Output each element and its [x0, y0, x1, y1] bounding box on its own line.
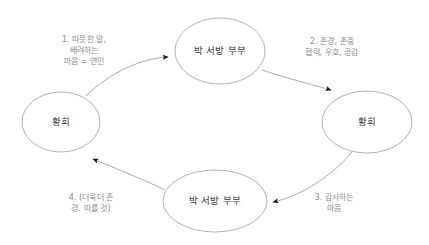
edge-bottom-to-left [93, 159, 165, 190]
node-right-ellipse[interactable] [322, 91, 412, 153]
node-top-ellipse[interactable] [175, 18, 265, 84]
node-left-ellipse[interactable] [22, 92, 100, 152]
edge-right-to-bottom [273, 152, 352, 202]
edge-left-to-top [86, 57, 168, 96]
node-shape-group [22, 18, 412, 232]
node-bottom-ellipse[interactable] [163, 170, 267, 232]
diagram-canvas: 박 서방 부부 황희 박 서방 부부 황희 1. 따뜻한 말, 배려하는 마음 … [0, 0, 429, 245]
edge-top-to-right [262, 70, 331, 90]
cycle-diagram [0, 0, 429, 245]
